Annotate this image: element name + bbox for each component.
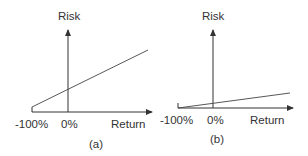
x-axis-label-b: Return [250, 114, 285, 126]
x-tick-minus100-a: -100% [15, 118, 48, 130]
panel-b: Risk -100% 0% Return (b) [160, 10, 293, 145]
risk-return-diagram: Risk -100% 0% Return (a) Risk -100% 0% R… [0, 0, 308, 156]
caption-b: (b) [210, 133, 224, 145]
caption-a: (a) [89, 138, 103, 150]
panel-a: Risk -100% 0% Return (a) [15, 10, 152, 150]
x-tick-zero-a: 0% [61, 118, 78, 130]
y-axis-label-a: Risk [58, 10, 81, 22]
risk-return-line-a [32, 50, 148, 107]
y-axis-label-b: Risk [202, 10, 225, 22]
x-tick-minus100-b: -100% [160, 114, 193, 126]
risk-return-line-b [178, 93, 290, 108]
x-tick-zero-b: 0% [207, 114, 224, 126]
x-axis-label-a: Return [111, 118, 146, 130]
